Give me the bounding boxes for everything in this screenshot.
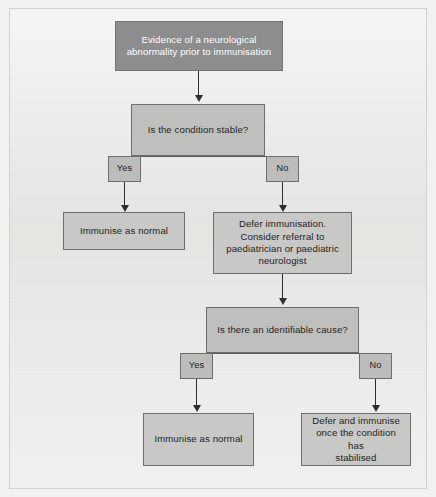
node-outcome-defer-stabilised: Defer and immunise once the condition ha…	[301, 413, 411, 466]
node-outcome-immunise-normal-1: Immunise as normal	[63, 212, 185, 250]
node-decision-condition-stable-label: Is the condition stable?	[142, 124, 255, 136]
node-branch-cause-no-label: No	[364, 360, 388, 372]
node-start-evidence: Evidence of a neurological abnormality p…	[115, 21, 283, 71]
node-decision-identifiable-cause-label: Is there an identifiable cause?	[211, 324, 354, 336]
arrowhead-cause-yes-to-immunise	[193, 405, 201, 412]
node-branch-cause-no: No	[359, 353, 392, 379]
node-outcome-defer-referral: Defer immunisation. Consider referral to…	[213, 212, 352, 274]
node-branch-cause-yes: Yes	[180, 353, 213, 379]
connector-stable-no-to-defer	[282, 182, 283, 207]
node-branch-stable-no: No	[266, 156, 299, 182]
connector-stable-yes-to-immunise	[124, 182, 125, 207]
node-branch-cause-yes-label: Yes	[183, 360, 210, 372]
connector-cause-no-to-defer	[375, 379, 376, 407]
node-decision-identifiable-cause: Is there an identifiable cause?	[206, 307, 359, 353]
arrowhead-cause-no-to-defer	[372, 405, 380, 412]
connector-defer-to-cause	[282, 274, 283, 300]
node-decision-condition-stable: Is the condition stable?	[131, 104, 265, 156]
node-outcome-immunise-normal-1-label: Immunise as normal	[74, 225, 174, 237]
arrowhead-defer-to-cause	[279, 298, 287, 305]
node-outcome-immunise-normal-2-label: Immunise as normal	[148, 433, 248, 445]
flowchart-page: Evidence of a neurological abnormality p…	[0, 0, 436, 497]
arrowhead-stable-no-to-defer	[279, 205, 287, 212]
connector-start-to-stable	[198, 71, 199, 97]
node-branch-stable-no-label: No	[271, 163, 295, 175]
node-outcome-immunise-normal-2: Immunise as normal	[143, 413, 254, 466]
node-branch-stable-yes-label: Yes	[111, 163, 138, 175]
node-outcome-defer-stabilised-label: Defer and immunise once the condition ha…	[302, 415, 410, 464]
node-branch-stable-yes: Yes	[108, 156, 141, 182]
node-outcome-defer-referral-label: Defer immunisation. Consider referral to…	[220, 218, 345, 267]
arrowhead-start-to-stable	[195, 95, 203, 102]
diagram-canvas: Evidence of a neurological abnormality p…	[9, 8, 427, 489]
node-start-evidence-label: Evidence of a neurological abnormality p…	[121, 34, 278, 59]
arrowhead-stable-yes-to-immunise	[121, 205, 129, 212]
connector-cause-yes-to-immunise	[196, 379, 197, 407]
